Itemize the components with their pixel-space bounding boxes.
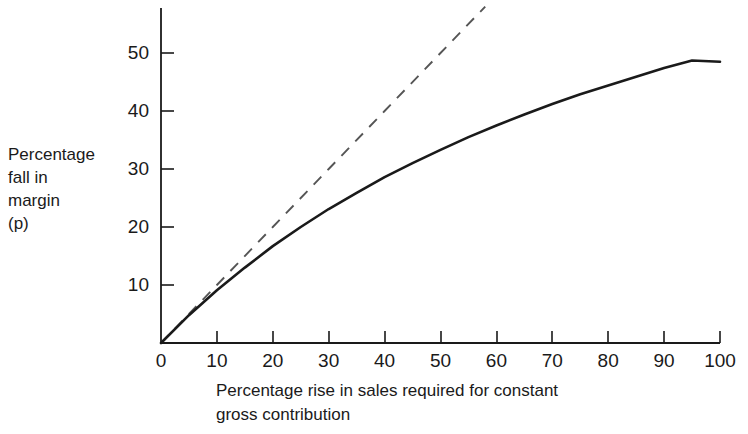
x-tick-label-90: 90: [654, 350, 675, 372]
y-axis-label-line-3: margin: [8, 189, 138, 212]
y-tick-label-10: 10: [128, 274, 149, 296]
x-tick-label-70: 70: [542, 350, 563, 372]
x-tick-label-60: 60: [486, 350, 507, 372]
x-tick-label-80: 80: [598, 350, 619, 372]
x-tick-label-0: 0: [156, 350, 167, 372]
x-tick-label-30: 30: [318, 350, 339, 372]
x-axis-ticks: [217, 331, 720, 343]
axes-group: [161, 8, 720, 343]
y-axis-label-line-4: (p): [8, 212, 138, 235]
y-tick-label-50: 50: [128, 42, 149, 64]
y-tick-label-20: 20: [128, 216, 149, 238]
y-axis-label-line-2: fall in: [8, 166, 138, 189]
x-axis-label: Percentage rise in sales required for co…: [216, 379, 676, 427]
y-axis-label-line-1: Percentage: [8, 143, 138, 166]
x-axis-label-line-2: gross contribution: [216, 403, 676, 427]
y-tick-label-30: 30: [128, 158, 149, 180]
x-tick-label-20: 20: [262, 350, 283, 372]
reference-line-series: [161, 7, 485, 343]
y-axis-label: Percentage fall in margin (p): [8, 143, 138, 235]
x-tick-label-10: 10: [206, 350, 227, 372]
y-axis-ticks: [161, 53, 174, 285]
x-tick-label-40: 40: [374, 350, 395, 372]
actual-curve-series: [161, 61, 720, 343]
x-tick-label-50: 50: [430, 350, 451, 372]
x-tick-label-100: 100: [704, 350, 736, 372]
y-tick-label-40: 40: [128, 100, 149, 122]
x-axis-label-line-1: Percentage rise in sales required for co…: [216, 379, 676, 403]
